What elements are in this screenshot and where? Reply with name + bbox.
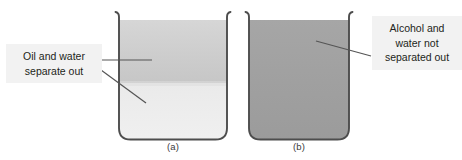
caption-beaker-b: (b)	[270, 141, 328, 152]
callout-oil-and-water-separate-out: Oil and water separate out	[6, 44, 102, 83]
beaker-b-graphic	[244, 10, 354, 144]
caption-beaker-a: (a)	[144, 141, 202, 152]
beaker-a	[114, 10, 232, 144]
beaker-a-graphic	[114, 10, 232, 144]
beaker-a-oil-layer	[114, 20, 232, 84]
beaker-a-layer-interface	[114, 81, 232, 86]
beaker-b-mixture-layer	[244, 20, 354, 143]
callout-alcohol-and-water-not-separated-out: Alcohol and water not separated out	[372, 16, 462, 70]
two-beaker-separation-figure: Oil and water separate out Alcohol and w…	[0, 0, 462, 160]
beaker-a-water-layer	[114, 83, 232, 143]
beaker-b	[244, 10, 354, 144]
